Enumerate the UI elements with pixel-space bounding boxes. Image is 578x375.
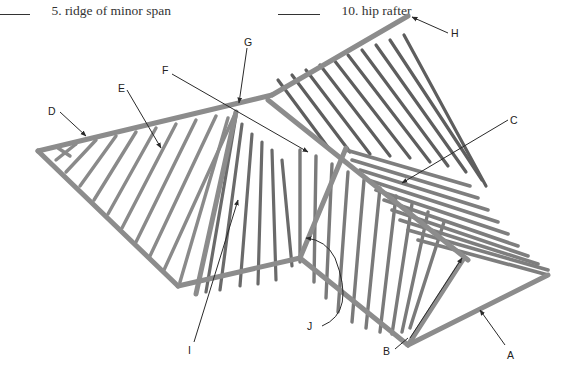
major-span-rafters-back xyxy=(278,35,486,186)
label-d: D xyxy=(48,105,56,117)
front-left-hip-slope xyxy=(206,116,292,292)
main-ridge-and-hips xyxy=(38,16,548,345)
label-i: I xyxy=(188,344,191,356)
label-f: F xyxy=(162,64,168,76)
label-g: G xyxy=(244,36,252,48)
roof-framing-diagram: A B C D E F G H I J xyxy=(0,0,578,375)
label-b: B xyxy=(383,345,390,357)
label-e: E xyxy=(118,82,125,94)
label-a: A xyxy=(507,349,514,361)
label-j: J xyxy=(307,320,312,332)
label-h: H xyxy=(451,27,459,39)
label-c: C xyxy=(510,114,518,126)
